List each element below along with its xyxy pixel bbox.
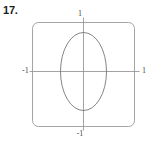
axis-label-top: 1 [78,10,82,18]
figure-container: 17. 1 -1 -1 1 [0,0,153,143]
axis-label-left: -1 [22,67,29,75]
axis-label-right: 1 [142,67,146,75]
axis-label-bottom: -1 [77,130,84,138]
